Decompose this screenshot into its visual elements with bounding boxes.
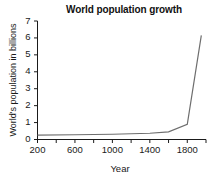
y-tick-label: 5 <box>17 49 31 59</box>
x-tick-label: 1400 <box>133 145 167 155</box>
x-tick-label: 1000 <box>95 145 129 155</box>
y-tick-label: 4 <box>17 66 31 76</box>
axes <box>38 21 207 140</box>
y-axis-ticks <box>34 21 38 140</box>
data-series-line <box>38 35 202 135</box>
chart-figure: World population growth World's populati… <box>0 0 212 182</box>
y-tick-label: 2 <box>17 100 31 110</box>
plot-area <box>0 0 212 182</box>
y-tick-label: 1 <box>17 117 31 127</box>
y-tick-label: 7 <box>17 16 31 26</box>
x-tick-label: 600 <box>58 145 92 155</box>
x-tick-label: 200 <box>21 145 55 155</box>
x-tick-label: 1800 <box>170 145 204 155</box>
y-tick-label: 6 <box>17 32 31 42</box>
y-tick-label: 3 <box>17 83 31 93</box>
y-tick-label: 0 <box>17 134 31 144</box>
x-axis-ticks <box>38 140 207 144</box>
